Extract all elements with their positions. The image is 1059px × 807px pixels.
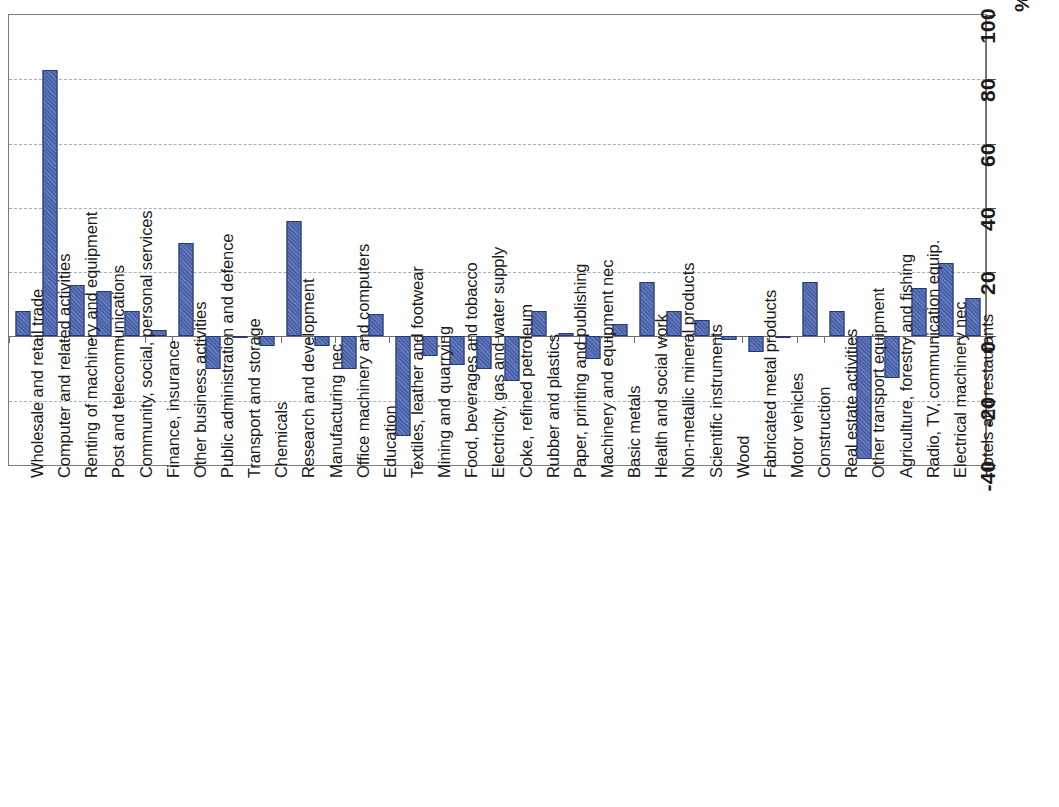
category-label: Computer and related activities — [55, 254, 74, 478]
axis-unit-label: % — [1010, 0, 1034, 12]
category-label: Transport and storage — [245, 318, 264, 478]
category-label: Public administration and defence — [218, 234, 237, 478]
value-tick-label: 60 — [976, 132, 1000, 178]
category-label: Machinery and equipment nec — [598, 260, 617, 478]
category-label: Radio, TV, communication equip. — [924, 240, 943, 478]
category-label: Community, social, personal services — [137, 210, 156, 478]
category-label: Mining and quarrying — [435, 326, 454, 478]
category-label: Coke, refined petroleum — [517, 304, 536, 478]
chart-figure: -40-20020406080100 % Wholesale and retai… — [0, 0, 1059, 807]
category-label: Education — [381, 406, 400, 479]
category-label: Agriculture, forestry and fishing — [897, 254, 916, 478]
value-tick-label: 80 — [976, 67, 1000, 113]
category-label: Electrical machinery nec — [951, 302, 970, 478]
category-label: Construction — [815, 387, 834, 478]
category-label: Health and social work — [652, 314, 671, 478]
value-tick-label: 100 — [976, 3, 1000, 49]
category-label: Manufacturing nec — [327, 344, 346, 478]
category-axis-labels: Wholesale and retail tradeComputer and r… — [0, 470, 1059, 807]
category-label: Chemicals — [272, 402, 291, 478]
category-label: Motor vehicles — [788, 373, 807, 478]
category-label: Fabricated metal products — [761, 290, 780, 478]
category-label: Office machinery and computers — [354, 244, 373, 478]
category-label: Post and telecommunications — [109, 265, 128, 478]
category-label: Research and development — [299, 279, 318, 478]
category-label: Basic metals — [625, 386, 644, 478]
category-label: Renting of machinery and equipment — [82, 212, 101, 478]
category-label: Textiles, leather and footwear — [408, 266, 427, 478]
value-tick-label: 40 — [976, 196, 1000, 242]
value-tick-label: 20 — [976, 260, 1000, 306]
category-label: Rubber and plastics — [544, 334, 563, 478]
bar — [803, 282, 818, 337]
category-label: Wholesale and retail trade — [28, 289, 47, 478]
category-label: Finance, insurance — [164, 340, 183, 478]
category-label: Food, beverages and tobacco — [462, 262, 481, 478]
category-label: Other transport equipment — [869, 288, 888, 478]
category-label: Hotels and restaurants — [978, 314, 997, 478]
category-label: Real estate activities — [842, 329, 861, 478]
category-label: Non-metallic mineral products — [679, 263, 698, 478]
category-label: Other business activities — [191, 302, 210, 478]
category-label: Paper, printing and publishing — [571, 264, 590, 478]
category-tick — [9, 336, 10, 343]
category-label: Scientific instruments — [707, 324, 726, 478]
category-label: Electricity, gas and water supply — [489, 247, 508, 478]
category-label: Wood — [734, 436, 753, 478]
